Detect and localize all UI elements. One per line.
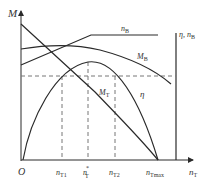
curve-label-eta: η: [140, 89, 145, 99]
tick-label-nT2: nT2: [109, 168, 120, 178]
y-axis-right-label: η, nB: [179, 30, 195, 40]
curve-label-MB: MB: [136, 52, 148, 62]
x-axis-label: nT: [189, 167, 198, 178]
tick-label-nT1: nT1: [56, 168, 67, 178]
y-axis-label: M: [7, 7, 18, 19]
curve-MT: [21, 24, 158, 160]
diagram-canvas: M O nT η, nB nT1 n*T nT2 nTmax nB MB MT …: [0, 0, 211, 187]
curve-label-MT: MT: [98, 88, 110, 98]
tick-label-nTstar: n*T: [83, 165, 89, 179]
curve-label-nB: nB: [121, 24, 129, 34]
origin-label: O: [18, 166, 25, 177]
tick-label-nTmax: nTmax: [146, 168, 164, 178]
curve-MB: [21, 46, 171, 84]
